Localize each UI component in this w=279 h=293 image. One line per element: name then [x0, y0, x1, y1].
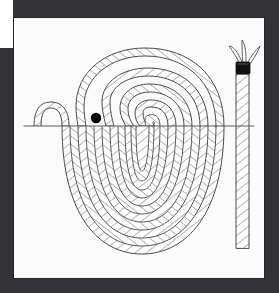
top-left-white-notch	[0, 0, 13, 48]
screenshot-stage	[0, 0, 279, 293]
rope-standing-end	[236, 74, 249, 248]
eye-dot	[91, 113, 101, 123]
artboard-panel	[14, 18, 264, 278]
coiled-rope-illustration	[14, 18, 264, 278]
